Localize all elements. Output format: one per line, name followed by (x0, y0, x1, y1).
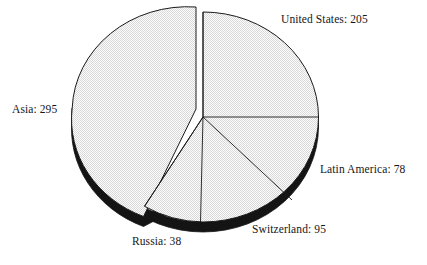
pie-chart-graphic (0, 0, 427, 265)
pie-label-united-states: United States: 205 (281, 13, 368, 26)
pie-label-asia: Asia: 295 (12, 103, 57, 116)
pie-label-switzerland: Switzerland: 95 (252, 223, 326, 236)
pie-chart: United States: 205 Latin America: 78 Swi… (0, 0, 427, 265)
pie-label-latin-america: Latin America: 78 (320, 163, 405, 176)
pie-label-russia: Russia: 38 (132, 235, 181, 248)
